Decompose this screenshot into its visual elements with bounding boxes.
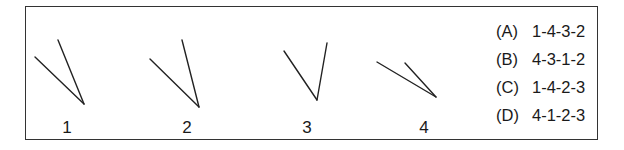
figure-1-ray (35, 57, 84, 104)
answer-options: (A)1-4-3-2 (B)4-3-1-2 (C)1-4-2-3 (D)4-1-… (496, 21, 585, 133)
figure-1-ray (58, 40, 84, 104)
option-b[interactable]: (B)4-3-1-2 (496, 49, 585, 77)
figure-label-1: 1 (57, 118, 77, 138)
figure-4-ray (377, 62, 436, 97)
figure-label-4: 4 (414, 118, 434, 138)
figure-4-ray (405, 63, 436, 97)
option-a[interactable]: (A)1-4-3-2 (496, 21, 585, 49)
figure-2-ray (182, 40, 199, 107)
figure-2-ray (150, 59, 199, 107)
figure-3-ray (284, 51, 317, 100)
figure-3-ray (317, 43, 327, 100)
option-c[interactable]: (C)1-4-2-3 (496, 77, 585, 105)
option-d[interactable]: (D)4-1-2-3 (496, 105, 585, 133)
figure-label-2: 2 (177, 118, 197, 138)
figure-label-3: 3 (297, 118, 317, 138)
